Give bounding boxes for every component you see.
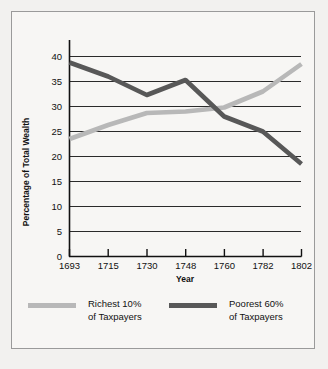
legend-swatch-poorest-60: [169, 303, 217, 308]
y-tick-label: 35: [51, 76, 62, 87]
legend-item-poorest-60: Poorest 60% of Taxpayers: [169, 298, 283, 323]
y-tick-label: 30: [51, 101, 62, 112]
x-tick-label: 1782: [253, 260, 274, 271]
y-tick-label: 5: [57, 226, 62, 237]
x-tick-label: 1693: [59, 260, 80, 271]
x-tick-label: 1802: [291, 260, 312, 271]
x-tick-label: 1748: [175, 260, 196, 271]
y-tick-labels: 40 35 30 25 20 15 10 5 0: [51, 51, 62, 262]
legend-label-line2: of Taxpayers: [229, 311, 283, 324]
legend-label-line1: Richest 10%: [88, 298, 142, 311]
line-chart-svg: Percentage of Total Wealth 40 35 30 25 2…: [12, 12, 314, 284]
x-tick-label: 1730: [136, 260, 157, 271]
y-axis-title: Percentage of Total Wealth: [21, 118, 31, 226]
gridlines: [69, 57, 301, 232]
x-tick-label: 1760: [214, 260, 235, 271]
legend-label-poorest-60: Poorest 60% of Taxpayers: [229, 298, 283, 323]
x-tick-marks: [70, 249, 302, 257]
legend-label-line2: of Taxpayers: [88, 311, 142, 324]
plot-area: Percentage of Total Wealth 40 35 30 25 2…: [12, 12, 314, 284]
y-tick-label: 20: [51, 151, 62, 162]
chart-legend: Richest 10% of Taxpayers Poorest 60% of …: [12, 284, 314, 348]
legend-label-richest-10: Richest 10% of Taxpayers: [88, 298, 142, 323]
y-tick-label: 15: [51, 176, 62, 187]
legend-item-richest-10: Richest 10% of Taxpayers: [28, 298, 142, 323]
x-axis-title: Year: [176, 274, 195, 284]
x-tick-label: 1715: [98, 260, 119, 271]
chart-frame: Percentage of Total Wealth 40 35 30 25 2…: [11, 11, 315, 349]
y-tick-label: 25: [51, 126, 62, 137]
legend-label-line1: Poorest 60%: [229, 298, 283, 311]
legend-swatch-richest-10: [28, 303, 76, 308]
y-tick-label: 10: [51, 201, 62, 212]
x-tick-labels: 1693 1715 1730 1748 1760 1782 1802: [59, 260, 312, 271]
y-tick-label: 40: [51, 51, 62, 62]
